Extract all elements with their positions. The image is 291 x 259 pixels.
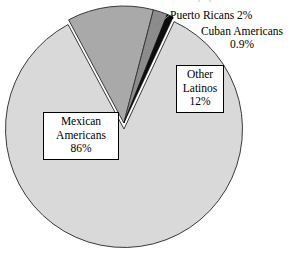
label-other-latinos-line1: Other (182, 68, 218, 82)
pie-chart-figure: Latino population Puerto Ricans 2% Cuban… (0, 0, 291, 259)
label-other-latinos-line3: 12% (182, 95, 218, 109)
label-other-latinos: Other Latinos 12% (176, 65, 224, 113)
label-mexican-americans: Mexican Americans 86% (43, 112, 119, 160)
label-mexican-americans-line1: Mexican (49, 115, 113, 129)
label-cuban-americans: Cuban Americans 0.9% (196, 25, 288, 51)
label-other-latinos-line2: Latinos (182, 82, 218, 96)
label-puerto-ricans: Puerto Ricans 2% (170, 9, 252, 22)
label-cuban-americans-line2: 0.9% (230, 38, 254, 50)
label-mexican-americans-line2: Americans (49, 129, 113, 143)
label-cuban-americans-line1: Cuban Americans (201, 25, 283, 37)
label-mexican-americans-line3: 86% (49, 142, 113, 156)
